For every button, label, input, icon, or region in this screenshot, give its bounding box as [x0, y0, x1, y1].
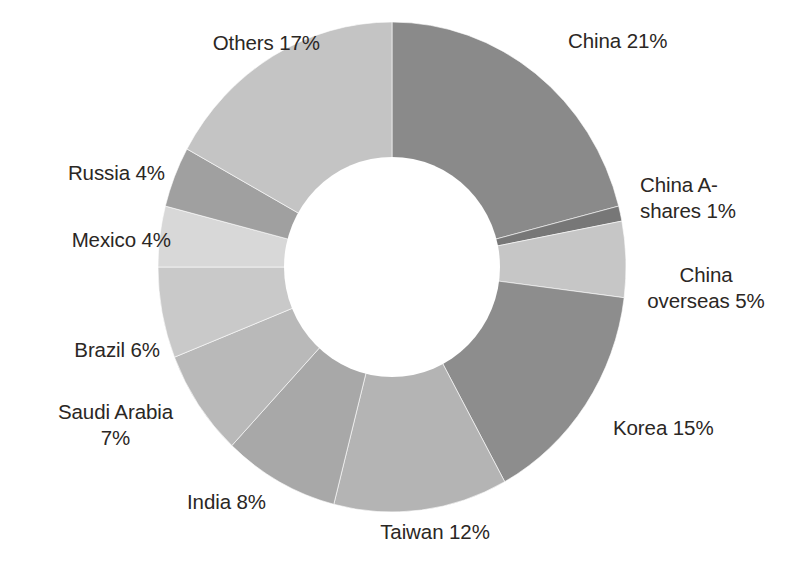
slice-label-saudi-arabia: Saudi Arabia 7% [28, 399, 203, 451]
slice-label-others: Others 17% [110, 30, 320, 56]
donut-chart: China 21% China A- shares 1% China overs… [0, 0, 790, 573]
slice-label-india: India 8% [106, 489, 266, 515]
slice-label-korea: Korea 15% [613, 415, 714, 441]
slice-label-brazil: Brazil 6% [12, 337, 160, 363]
donut-center-hole [284, 157, 500, 377]
slice-label-china-a-shares: China A- shares 1% [640, 172, 736, 224]
slice-label-taiwan: Taiwan 12% [345, 519, 525, 545]
slice-label-china: China 21% [568, 28, 667, 54]
slice-label-china-overseas: China overseas 5% [625, 262, 787, 314]
slice-label-mexico: Mexico 4% [6, 227, 171, 253]
slice-label-russia: Russia 4% [10, 160, 165, 186]
